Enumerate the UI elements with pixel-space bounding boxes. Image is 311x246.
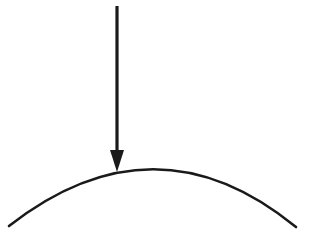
convex-arc [9,169,296,227]
arrow-down-icon [110,150,124,172]
diagram-canvas [0,0,311,246]
diagram-svg [0,0,311,246]
